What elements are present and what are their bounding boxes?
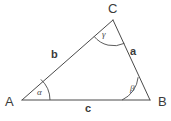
vertex-label-c: C	[108, 2, 117, 15]
triangle-figure: A B C a b c α β γ	[0, 0, 171, 121]
angle-label-gamma: γ	[102, 30, 106, 39]
angle-arc-gamma	[94, 36, 124, 45]
vertex-label-a: A	[5, 95, 14, 108]
side-label-c: c	[85, 103, 91, 114]
angle-label-alpha: α	[37, 88, 42, 97]
angle-label-beta: β	[130, 84, 134, 93]
side-b-line	[22, 20, 113, 100]
side-label-b: b	[51, 49, 58, 60]
side-label-a: a	[130, 46, 136, 57]
vertex-label-b: B	[158, 95, 167, 108]
